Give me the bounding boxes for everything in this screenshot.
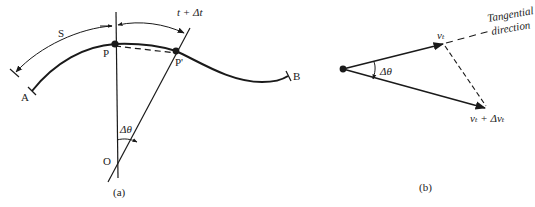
vector-vt	[343, 44, 443, 69]
angle-arc-b	[373, 62, 375, 79]
origin-dot	[340, 66, 347, 73]
label-vt: vₜ	[437, 29, 445, 41]
panel-a: S P P' A B O Δθ t + Δt (a)	[10, 6, 300, 199]
arc-delta-t-arrow	[118, 23, 184, 33]
label-a: A	[21, 91, 29, 103]
point-p-prime-dot	[173, 48, 180, 55]
caption-b: (b)	[419, 181, 432, 194]
label-delta-theta-b: Δθ	[379, 65, 392, 77]
tangential-direction-line	[446, 31, 490, 43]
label-p: P	[103, 47, 109, 59]
label-o: O	[103, 155, 111, 167]
vector-vt-plus-dvt	[343, 69, 485, 108]
panel-b: vₜ vₜ + Δvₜ Δθ Tangential direction (b)	[340, 4, 535, 194]
label-p-prime: P'	[175, 56, 183, 68]
radius-line-p	[116, 12, 118, 178]
angle-arc-a	[117, 139, 137, 142]
label-s: S	[58, 27, 64, 39]
label-delta-theta-a: Δθ	[119, 123, 132, 135]
caption-a: (a)	[113, 186, 126, 199]
label-t-plus-delta-t: t + Δt	[177, 6, 203, 18]
delta-v-line	[445, 46, 486, 106]
figure-canvas: S P P' A B O Δθ t + Δt (a) vₜ vₜ + Δvₜ Δ…	[0, 0, 535, 207]
label-b: B	[293, 70, 300, 82]
label-vt-plus-dvt: vₜ + Δvₜ	[470, 112, 505, 124]
point-p-dot	[111, 40, 118, 47]
